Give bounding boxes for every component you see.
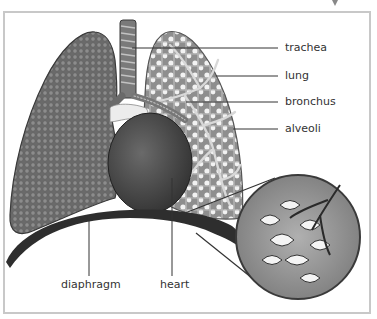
left-lung [10, 32, 118, 234]
alveoli-magnified-inset [236, 175, 360, 299]
label-diaphragm: diaphragm [61, 279, 121, 291]
heart [108, 113, 192, 213]
label-alveoli: alveoli [285, 123, 321, 135]
trachea [120, 20, 136, 98]
label-heart: heart [160, 279, 189, 291]
label-bronchus: bronchus [285, 96, 336, 108]
label-lung: lung [285, 70, 309, 82]
label-trachea: trachea [285, 42, 327, 54]
